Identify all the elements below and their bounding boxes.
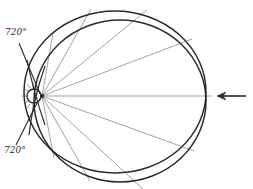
focal-dot — [40, 94, 44, 98]
ray — [42, 39, 192, 96]
ray — [42, 96, 194, 151]
optics-diagram — [0, 0, 253, 189]
inner-circle — [34, 20, 206, 182]
ray — [42, 96, 143, 189]
bottom-angle-label: 720° — [4, 146, 26, 155]
left-pointing-arrow — [217, 92, 246, 100]
top-angle-label: 720° — [5, 28, 27, 37]
